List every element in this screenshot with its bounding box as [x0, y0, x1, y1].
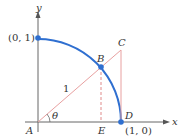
label-point-10: (1, 0) — [125, 125, 152, 136]
label-E: E — [97, 125, 106, 136]
x-axis-label: x — [172, 116, 178, 127]
point-D — [118, 119, 124, 125]
label-radius: 1 — [63, 83, 69, 94]
label-A: A — [25, 125, 33, 136]
unit-circle-diagram: y x (0, 1) (1, 0) A B C D E θ 1 — [0, 0, 185, 140]
theta-angle-arc — [47, 114, 50, 122]
label-theta: θ — [52, 110, 58, 121]
point-B — [98, 64, 104, 70]
y-axis-label: y — [35, 2, 42, 13]
label-point-01: (0, 1) — [8, 32, 35, 43]
unit-arc — [38, 39, 121, 122]
label-D: D — [124, 110, 133, 121]
line-AC — [38, 50, 121, 122]
label-C: C — [118, 37, 126, 48]
label-B: B — [96, 53, 104, 64]
x-axis-arrow-icon — [163, 120, 170, 125]
point-top — [35, 35, 41, 41]
